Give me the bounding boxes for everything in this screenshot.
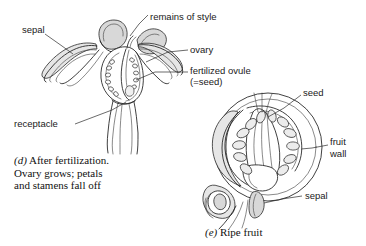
caption-d-line1: (d) After fertilization. bbox=[14, 154, 109, 167]
stem-right-inner bbox=[129, 104, 132, 154]
sepal-left-outer bbox=[42, 43, 97, 78]
ovule bbox=[133, 71, 138, 75]
stem-left-inner bbox=[112, 103, 118, 154]
stem-right-edge bbox=[134, 102, 138, 154]
seed bbox=[286, 142, 299, 151]
caption-e-marker: (e) bbox=[205, 226, 217, 238]
label-fruit-wall-line1: fruit bbox=[330, 136, 346, 147]
leader-sepal-left bbox=[45, 34, 73, 54]
label-fertilized-ovule: fertilized ovule bbox=[190, 65, 251, 76]
sepal-right-below-fruit bbox=[249, 191, 264, 218]
caption-e-rest: Ripe fruit bbox=[217, 226, 262, 238]
ovule bbox=[105, 73, 111, 77]
stem-center-line bbox=[120, 105, 122, 154]
caption-d-rest: After fertilization. bbox=[27, 154, 109, 166]
fruit-stalk-3 bbox=[242, 200, 248, 228]
label-sepal-left: sepal bbox=[22, 24, 45, 35]
label-ovary: ovary bbox=[190, 44, 213, 55]
caption-d-marker: (d) bbox=[14, 154, 27, 166]
botanical-figure: sepal remains of style ovary fertilized … bbox=[0, 0, 366, 246]
label-sepal-fruit: sepal bbox=[305, 190, 328, 201]
leader-receptacle bbox=[75, 102, 126, 124]
caption-panel-e: (e) Ripe fruit bbox=[205, 226, 262, 239]
caption-d-line2: Ovary grows; petals bbox=[14, 167, 109, 180]
label-remains-of-style: remains of style bbox=[150, 11, 217, 22]
caption-panel-d: (d) After fertilization. Ovary grows; pe… bbox=[14, 154, 109, 192]
label-seed: seed bbox=[303, 87, 324, 98]
label-fruit-wall-line2: wall bbox=[330, 148, 346, 159]
ovule bbox=[105, 80, 111, 85]
fertilized-ovule-highlight bbox=[125, 86, 134, 97]
caption-d-line3: and stamens fall off bbox=[14, 179, 109, 192]
label-receptacle: receptacle bbox=[14, 118, 58, 129]
label-seed-equals: (=seed) bbox=[190, 76, 222, 87]
sepal-curl-core bbox=[214, 194, 226, 210]
